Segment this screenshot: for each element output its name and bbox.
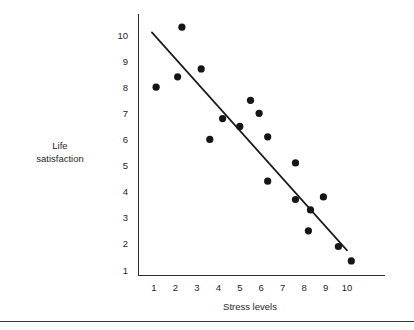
data-point [264, 178, 271, 185]
x-tick-label-6: 6 [259, 282, 264, 293]
data-point [256, 110, 263, 117]
data-point [174, 73, 181, 80]
y-tick-label-7: 7 [123, 108, 128, 119]
data-point [348, 257, 355, 264]
y-tick-label-6: 6 [123, 134, 128, 145]
y-axis-title-line-2: satisfaction [36, 153, 84, 164]
x-axis-title: Stress levels [223, 301, 277, 312]
data-point [264, 133, 271, 140]
data-point [305, 227, 312, 234]
plot-area: 12345678910 12345678910 Life satisfactio… [0, 0, 414, 330]
data-point [206, 136, 213, 143]
y-tick-label-9: 9 [123, 56, 128, 67]
data-point-group [153, 24, 355, 265]
y-tick-label-8: 8 [123, 82, 128, 93]
x-tick-label-2: 2 [173, 282, 178, 293]
y-axis-title-line-1: Life [52, 140, 67, 151]
x-tick-label-8: 8 [301, 282, 306, 293]
x-tick-label-9: 9 [323, 282, 328, 293]
y-tick-label-5: 5 [123, 160, 128, 171]
y-tick-label-10: 10 [117, 30, 128, 41]
data-point [153, 84, 160, 91]
data-point [307, 206, 314, 213]
footer-divider [0, 321, 414, 322]
data-point [335, 243, 342, 250]
line-of-best-fit [152, 32, 347, 250]
y-tick-label-3: 3 [123, 212, 128, 223]
data-point [219, 115, 226, 122]
y-axis-tick-labels: 12345678910 [117, 30, 128, 276]
scatter-plot-figure: 12345678910 12345678910 Life satisfactio… [0, 0, 414, 330]
data-point [247, 97, 254, 104]
data-point [320, 193, 327, 200]
x-tick-label-3: 3 [194, 282, 199, 293]
y-tick-label-4: 4 [123, 186, 128, 197]
data-point [292, 159, 299, 166]
axes-group [138, 14, 385, 276]
x-tick-label-5: 5 [237, 282, 242, 293]
x-axis-tick-labels: 12345678910 [151, 282, 352, 293]
data-point [178, 24, 185, 31]
x-tick-label-7: 7 [280, 282, 285, 293]
data-point [292, 196, 299, 203]
y-tick-label-2: 2 [123, 238, 128, 249]
x-tick-label-4: 4 [216, 282, 221, 293]
data-point [198, 65, 205, 72]
data-point [236, 123, 243, 130]
x-tick-label-10: 10 [342, 282, 353, 293]
y-axis-title: Life satisfaction [36, 140, 84, 164]
x-tick-label-1: 1 [151, 282, 156, 293]
y-tick-label-1: 1 [123, 265, 128, 276]
